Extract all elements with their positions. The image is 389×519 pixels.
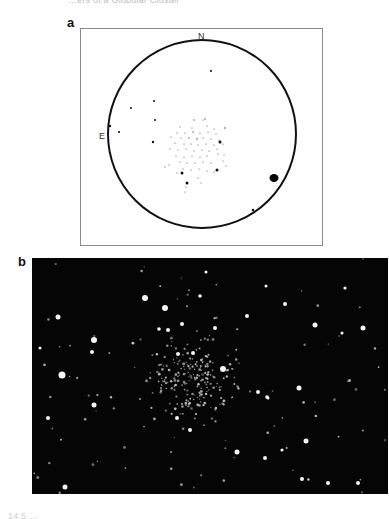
bright-star: [270, 174, 279, 182]
star-dot: [223, 154, 224, 155]
star: [300, 477, 304, 481]
star-dot: [200, 182, 201, 183]
star-dot: [154, 119, 156, 121]
finder-chart-drawing: [81, 29, 324, 247]
star: [63, 485, 68, 490]
star-dot: [176, 132, 177, 133]
star-dot: [184, 191, 185, 192]
star-dot: [177, 149, 178, 150]
star-dot: [199, 156, 200, 157]
star: [92, 403, 97, 408]
star: [56, 315, 61, 320]
star: [157, 327, 161, 331]
star-dot: [184, 132, 185, 133]
star-dot: [222, 160, 223, 161]
star: [91, 337, 97, 343]
star-dot: [185, 148, 186, 149]
star-dot: [199, 132, 200, 133]
star-dot: [190, 143, 191, 144]
star-dot: [208, 150, 209, 151]
star-dot: [202, 137, 203, 138]
star-dot: [193, 150, 194, 151]
star: [162, 305, 168, 311]
star-dot: [197, 177, 198, 178]
star-dot: [206, 155, 207, 156]
star: [39, 347, 42, 350]
star: [166, 328, 170, 332]
star-dot: [213, 128, 214, 129]
star: [280, 448, 283, 451]
star-dot: [191, 155, 192, 156]
finder-chart: N E: [80, 28, 323, 246]
star: [326, 481, 330, 485]
panel-label-a: a: [67, 15, 74, 30]
star: [235, 450, 240, 455]
star-dot: [217, 153, 218, 154]
star: [267, 397, 270, 400]
star-dot: [182, 168, 183, 169]
star-dot: [216, 169, 219, 172]
star-dot: [175, 155, 176, 156]
caption-top: …ers of a Globular Cluster: [68, 0, 180, 5]
star-dot: [183, 156, 184, 157]
star: [256, 390, 260, 394]
star: [297, 386, 302, 391]
star: [175, 416, 179, 420]
star-field-image: [32, 258, 388, 494]
star-dot: [215, 133, 216, 134]
star-dot: [210, 162, 211, 163]
star-dot: [224, 127, 226, 129]
star-dot: [213, 144, 214, 145]
star-dot: [181, 172, 184, 175]
star-dot: [183, 143, 184, 144]
star: [59, 372, 66, 379]
star: [265, 285, 268, 288]
star-dot: [174, 142, 175, 143]
star: [356, 481, 360, 485]
star-dot: [252, 209, 255, 212]
star-dot: [222, 143, 223, 144]
star: [176, 352, 180, 356]
star-dot: [191, 127, 192, 128]
star-dot: [206, 170, 207, 171]
star-dot: [204, 118, 205, 119]
star-dot: [193, 119, 194, 120]
star-dot: [179, 161, 180, 162]
star: [361, 326, 366, 331]
star: [220, 366, 226, 372]
star: [283, 302, 287, 306]
star: [205, 271, 208, 274]
star: [142, 295, 148, 301]
star-dot: [210, 70, 212, 72]
star-dot: [219, 141, 222, 144]
star-dot: [216, 148, 217, 149]
star-dot: [197, 144, 198, 145]
star-dot: [118, 131, 120, 133]
star-dot: [196, 138, 198, 140]
cluster-photograph: [32, 258, 388, 494]
star: [90, 350, 94, 354]
star: [313, 323, 318, 328]
star: [180, 322, 184, 326]
star-dot: [186, 182, 189, 185]
star-dot: [164, 166, 165, 167]
star: [188, 428, 192, 432]
star-dot: [206, 125, 207, 126]
star-dot: [153, 100, 155, 102]
star-dot: [179, 126, 180, 127]
star-dot: [176, 172, 177, 173]
star: [304, 439, 309, 444]
star: [198, 294, 202, 298]
star-dot: [198, 168, 199, 169]
compass-east-label: E: [99, 131, 105, 141]
star-dot: [202, 161, 203, 162]
star-dot: [218, 139, 219, 140]
star-dot: [152, 141, 154, 143]
star-dot: [207, 131, 208, 132]
star-dot: [201, 149, 202, 150]
star-dot: [188, 137, 189, 138]
compass-north-label: N: [198, 31, 205, 41]
star-dot: [194, 162, 195, 163]
star-dot: [168, 164, 169, 165]
star-dot: [192, 131, 193, 132]
